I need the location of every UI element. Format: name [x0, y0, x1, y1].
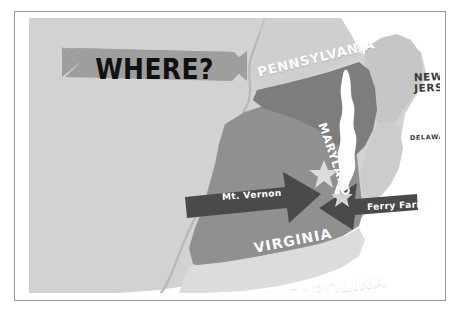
banner-ribbon-shape: [62, 47, 247, 90]
map-canvas: PENNSYLVANIA NEW JERSEY DELAWARE MARYLAN…: [29, 18, 440, 293]
where-banner: WHERE?: [62, 47, 247, 90]
map-illustration: PENNSYLVANIA NEW JERSEY DELAWARE MARYLAN…: [0, 0, 461, 315]
